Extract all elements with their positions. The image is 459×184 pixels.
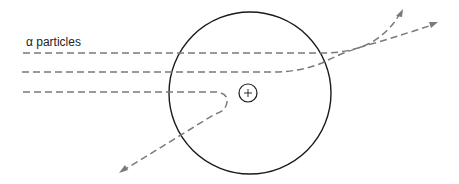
alpha-path-3-line [23,92,227,170]
arrow-head-icon [119,165,128,173]
arrow-head-icon [429,22,438,28]
alpha-path-2-line [22,25,432,72]
alpha-path-3 [23,92,227,173]
arrow-head-icon [396,9,403,17]
alpha-path-2 [22,22,438,72]
alpha-particles-label: α particles [26,35,81,49]
rutherford-scattering-diagram: α particles [0,0,459,184]
nucleus [239,84,257,102]
